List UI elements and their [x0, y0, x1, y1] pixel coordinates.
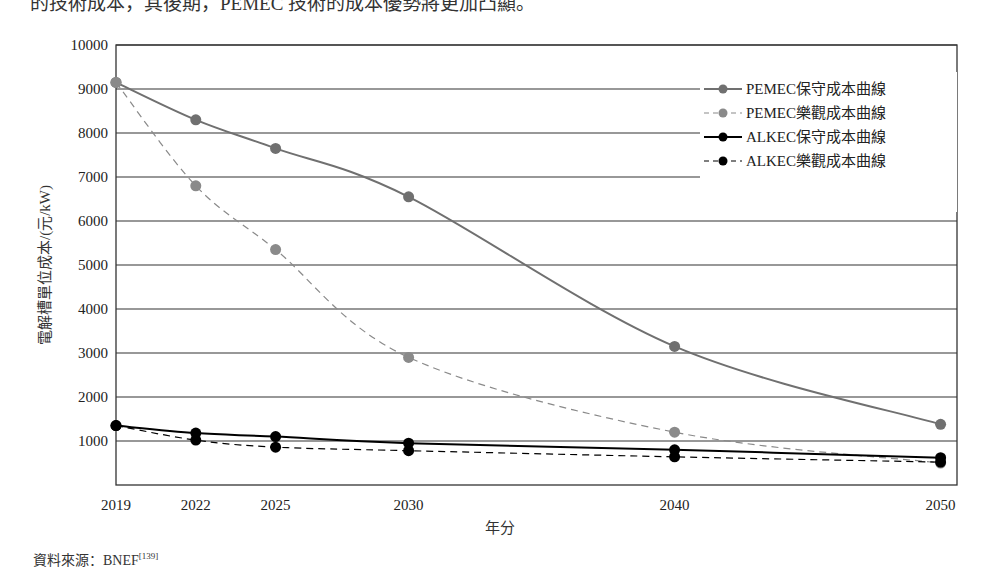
source-ref: [139] [139, 551, 159, 561]
y-tick-label: 10000 [71, 37, 109, 53]
x-axis-ticks: 201920222025203020402050 [101, 497, 956, 513]
x-tick-label: 2030 [394, 497, 424, 513]
x-tick-label: 2040 [660, 497, 690, 513]
series-line [116, 426, 941, 458]
y-tick-label: 7000 [78, 169, 108, 185]
data-point-marker [190, 180, 201, 191]
y-tick-label: 3000 [78, 345, 108, 361]
legend: PEMEC保守成本曲線PEMEC樂觀成本曲線ALKEC保守成本曲線ALKEC樂觀… [700, 72, 957, 212]
data-point-marker [190, 114, 201, 125]
y-tick-label: 1000 [78, 433, 108, 449]
x-tick-label: 2022 [181, 497, 211, 513]
legend-marker-icon [719, 133, 728, 142]
legend-label: ALKEC樂觀成本曲線 [746, 153, 886, 169]
data-point-marker [669, 451, 680, 462]
source-note: 資料來源：BNEF[139] [33, 549, 158, 569]
legend-label: ALKEC保守成本曲線 [746, 129, 886, 145]
data-point-marker [111, 77, 122, 88]
data-point-marker [935, 419, 946, 430]
data-point-marker [111, 420, 122, 431]
legend-label: PEMEC樂觀成本曲線 [746, 105, 886, 121]
series-3 [111, 420, 947, 468]
y-tick-label: 5000 [78, 257, 108, 273]
y-tick-label: 6000 [78, 213, 108, 229]
y-tick-label: 9000 [78, 81, 108, 97]
data-point-marker [270, 143, 281, 154]
data-point-marker [935, 457, 946, 468]
legend-marker-icon [719, 85, 728, 94]
x-tick-label: 2050 [926, 497, 956, 513]
data-point-marker [403, 445, 414, 456]
data-point-marker [403, 191, 414, 202]
data-point-marker [270, 244, 281, 255]
line-chart: 1000200030004000500060007000800090001000… [0, 0, 989, 577]
data-point-marker [190, 435, 201, 446]
y-tick-label: 4000 [78, 301, 108, 317]
y-tick-label: 8000 [78, 125, 108, 141]
legend-marker-icon [719, 157, 728, 166]
y-tick-label: 2000 [78, 389, 108, 405]
x-tick-label: 2025 [261, 497, 291, 513]
data-point-marker [270, 442, 281, 453]
x-tick-label: 2019 [101, 497, 131, 513]
series-line [116, 426, 941, 463]
data-point-marker [403, 352, 414, 363]
legend-label: PEMEC保守成本曲線 [746, 81, 886, 97]
legend-marker-icon [719, 109, 728, 118]
data-point-marker [669, 427, 680, 438]
data-point-marker [669, 341, 680, 352]
x-axis-label: 年分 [485, 520, 515, 536]
series-2 [111, 420, 947, 463]
source-label: 資料來源：BNEF [33, 553, 139, 568]
y-axis-ticks: 1000200030004000500060007000800090001000… [71, 37, 109, 449]
y-axis-label: 電解槽單位成本/(元/kW) [37, 185, 54, 345]
data-point-marker [270, 431, 281, 442]
